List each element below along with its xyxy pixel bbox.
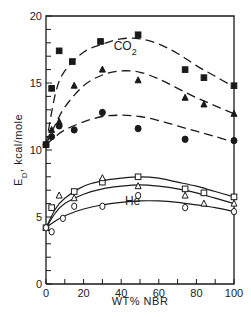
triangle-marker [135,77,141,83]
square-marker [201,75,207,81]
circle-marker [231,208,236,214]
square-marker [98,39,104,45]
circle-marker [43,141,49,147]
triangle-marker [135,183,141,189]
square-marker [135,32,141,38]
square-marker [70,59,76,65]
triangle-marker [56,192,62,198]
circle-marker [183,204,188,210]
x-tick-label: 20 [77,287,89,299]
circle-marker [99,109,105,115]
x-axis-title: WT% NBR [112,295,169,307]
x-tick-label: 80 [190,287,202,299]
y-tick-label: 10 [30,144,42,156]
chart: 05101520020406080100 WT% NBR ED, kcal/mo… [0,0,251,317]
square-marker [49,205,55,211]
square-marker [231,83,237,89]
x-tick-label: 0 [43,287,49,299]
svg-text:ED, kcal/mole: ED, kcal/mole [12,114,29,186]
circle-marker [43,225,48,231]
circle-marker [56,123,62,129]
y-axis-title: ED, kcal/mole [12,114,29,186]
triangle-marker [71,82,77,88]
circle-marker [49,133,55,139]
square-marker [49,86,55,92]
circle-marker [60,215,65,221]
series-label-co: CO2 [114,39,137,57]
circle-marker [231,137,237,143]
circle-marker [135,125,141,131]
triangle-marker [99,66,105,72]
square-marker [56,48,62,54]
y-tick-label: 0 [36,278,42,290]
x-tick-label: 100 [225,287,243,299]
square-marker [71,189,77,195]
triangle-marker [182,192,188,198]
y-axis-title-unit: , kcal/mole [12,114,24,172]
circle-marker [49,229,54,235]
series-label-he: He [125,194,141,208]
circle-marker [72,203,77,209]
y-axis-title-main: E [12,178,24,186]
circle-marker [182,136,188,142]
circle-marker [71,127,77,133]
square-marker [231,194,237,200]
triangle-marker [201,200,207,206]
y-tick-label: 20 [30,10,42,22]
square-marker [201,190,207,196]
square-marker [182,186,188,192]
plot-frame [46,16,234,284]
square-marker [182,67,188,73]
triangle-marker [182,94,188,100]
y-tick-label: 15 [30,77,42,89]
y-tick-label: 5 [36,211,42,223]
square-marker [135,174,141,180]
circle-marker [100,203,105,209]
triangle-marker [99,175,105,181]
